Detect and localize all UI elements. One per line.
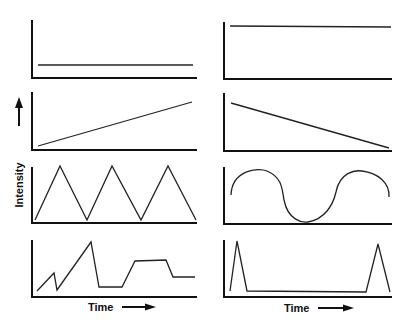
- y-axis-label: Intensity: [13, 162, 25, 208]
- x-axis-label-left-group: Time: [88, 301, 156, 313]
- right-arrow-icon: [343, 305, 354, 312]
- curve-linear-decrease: [231, 103, 389, 148]
- x-axis-label-left: Time: [88, 301, 113, 313]
- right-arrow-icon: [145, 304, 156, 311]
- x-axis-label-right-group: Time: [284, 302, 354, 314]
- panel-r4c1: [32, 240, 197, 297]
- curve-triangle-wave: [35, 166, 196, 220]
- axes: [224, 167, 392, 224]
- panel-r4c2: [224, 240, 392, 297]
- curve-sinusoid: [231, 170, 389, 223]
- axes: [32, 20, 197, 78]
- curve-irregular: [37, 242, 195, 291]
- panel-r2c1: [32, 92, 197, 150]
- curve-constant-high: [230, 26, 391, 27]
- axes: [224, 22, 392, 79]
- curve-linear-increase: [38, 102, 192, 146]
- y-axis-label-group: Intensity: [13, 97, 25, 208]
- panel-r1c1: [32, 20, 197, 78]
- panel-r2c2: [224, 93, 392, 151]
- intensity-time-profiles-figure: Intensity Time: [0, 0, 405, 326]
- panel-r3c2: [224, 167, 392, 224]
- panel-r1c2: [224, 22, 392, 79]
- curve-spikes-at-ends: [230, 241, 390, 292]
- x-axis-label-right: Time: [284, 302, 309, 314]
- panel-r3c1: [32, 166, 197, 223]
- up-arrow-icon: [15, 97, 23, 108]
